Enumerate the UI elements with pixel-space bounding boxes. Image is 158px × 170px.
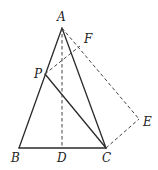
point-label-p: P bbox=[33, 67, 43, 81]
segment-ac bbox=[62, 28, 106, 148]
segments-group bbox=[19, 28, 139, 148]
point-label-e: E bbox=[142, 115, 152, 129]
geometry-diagram: ABCDPFE bbox=[0, 0, 158, 170]
point-label-b: B bbox=[10, 151, 20, 165]
segment-ae bbox=[62, 28, 139, 119]
point-label-f: F bbox=[83, 32, 93, 46]
point-label-d: D bbox=[56, 151, 67, 165]
labels-group: ABCDPFE bbox=[10, 10, 152, 165]
segment-pc bbox=[45, 74, 106, 148]
segment-ce bbox=[106, 119, 139, 148]
segment-ab bbox=[19, 28, 62, 148]
point-label-c: C bbox=[102, 151, 111, 165]
point-label-a: A bbox=[56, 10, 66, 24]
